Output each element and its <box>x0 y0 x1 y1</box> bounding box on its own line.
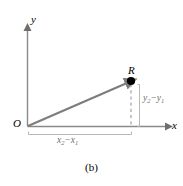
horizontal-component-sub-start: 1 <box>75 139 78 146</box>
displacement-vector-arrow <box>28 83 127 126</box>
y-axis-label: y <box>31 14 36 25</box>
origin-label: O <box>13 118 21 129</box>
figure-caption: (b) <box>0 162 183 173</box>
vertical-component-label: y2−y1 <box>143 94 164 104</box>
vertical-component-sub-end: 2 <box>147 97 150 104</box>
vertical-component-sub-start: 1 <box>161 97 164 104</box>
horizontal-component-label: x2−x1 <box>57 136 78 146</box>
x-axis-label: x <box>172 120 177 131</box>
figure-container: y x O R y2−y1 x2−x1 (b) <box>0 0 183 186</box>
point-r-marker <box>127 77 135 85</box>
horizontal-component-sub-end: 2 <box>61 139 64 146</box>
point-r-label: R <box>128 65 135 76</box>
